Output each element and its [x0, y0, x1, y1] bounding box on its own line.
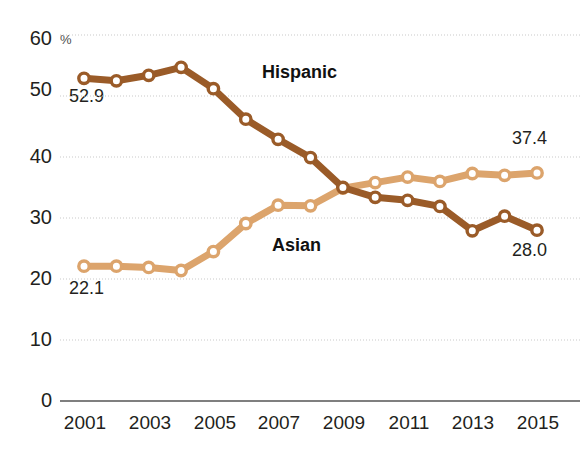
data-point	[79, 73, 89, 83]
data-point	[176, 265, 186, 275]
data-point	[467, 168, 477, 178]
data-point	[402, 195, 412, 205]
data-point	[402, 172, 412, 182]
data-point	[241, 218, 251, 228]
plot-area	[0, 0, 588, 456]
line-chart: 60 50 40 30 20 10 0 % 2001 2003 2005 200…	[0, 0, 588, 456]
data-point	[499, 211, 509, 221]
data-point	[144, 70, 154, 80]
data-point	[208, 84, 218, 94]
data-point	[111, 76, 121, 86]
data-point	[467, 226, 477, 236]
series-asian	[79, 168, 542, 276]
data-point	[370, 177, 380, 187]
data-point	[305, 201, 315, 211]
data-point	[435, 201, 445, 211]
data-point	[111, 261, 121, 271]
data-point	[176, 62, 186, 72]
data-point	[208, 246, 218, 256]
data-point	[273, 200, 283, 210]
data-point	[370, 192, 380, 202]
data-point	[273, 134, 283, 144]
data-point	[241, 114, 251, 124]
data-point	[79, 261, 89, 271]
data-point	[144, 262, 154, 272]
data-point	[338, 182, 348, 192]
data-point	[532, 225, 542, 235]
data-point	[305, 152, 315, 162]
data-point	[435, 176, 445, 186]
data-point	[499, 170, 509, 180]
data-point	[532, 168, 542, 178]
series-line-asian	[84, 173, 537, 271]
